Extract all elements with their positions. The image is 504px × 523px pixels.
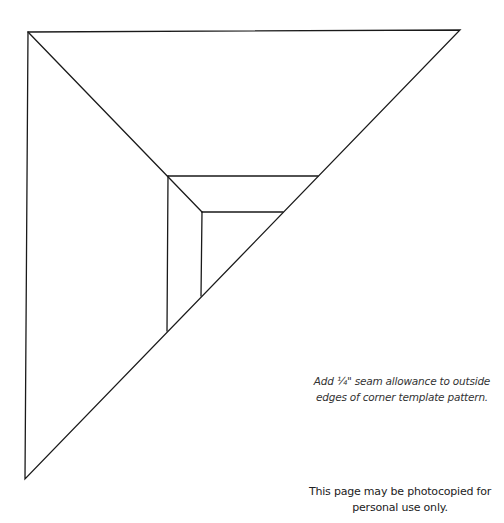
photocopy-notice: This page may be photocopied for persona…	[296, 484, 504, 516]
note-line-2: edges of corner template pattern.	[300, 389, 504, 405]
corner-template-pattern	[0, 0, 504, 523]
outer-triangle	[25, 30, 460, 479]
note-line-1: Add ¼" seam allowance to outside	[300, 373, 504, 389]
footer-line-2: personal use only.	[296, 500, 504, 516]
diagonal-upper-line	[28, 32, 202, 212]
outer-vertical-line	[167, 176, 168, 331]
inner-vertical-line	[201, 212, 202, 296]
footer-line-1: This page may be photocopied for	[296, 484, 504, 500]
seam-allowance-note: Add ¼" seam allowance to outside edges o…	[300, 373, 504, 405]
